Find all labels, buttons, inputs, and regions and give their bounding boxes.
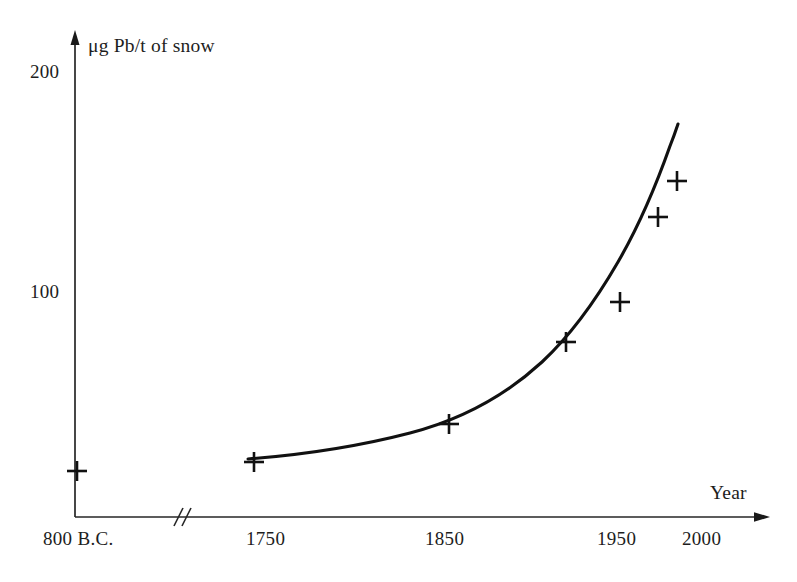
data-point-marker <box>648 207 668 227</box>
chart-plot-area <box>0 0 797 582</box>
y-tick-label-100: 100 <box>30 282 59 301</box>
x-axis-title: Year <box>710 483 747 503</box>
data-point-marker <box>67 461 87 481</box>
data-point-marker <box>667 171 687 191</box>
x-tick-label-1950: 1950 <box>597 529 636 548</box>
y-axis-title: μg Pb/t of snow <box>88 36 215 56</box>
data-point-marker <box>556 332 576 352</box>
y-axis-arrowhead <box>71 30 80 45</box>
x-tick-label-2000: 2000 <box>682 529 721 548</box>
chart-figure: μg Pb/t of snow Year 200 100 800 B.C. 17… <box>0 0 797 582</box>
y-tick-label-200: 200 <box>30 62 59 81</box>
x-tick-label-800-bc: 800 B.C. <box>43 529 114 548</box>
x-tick-label-1850: 1850 <box>425 529 464 548</box>
data-point-marker <box>244 452 264 472</box>
fitted-curve <box>248 124 678 459</box>
data-point-marker <box>610 292 630 312</box>
x-axis-arrowhead <box>754 512 770 522</box>
x-tick-label-1750: 1750 <box>246 529 285 548</box>
